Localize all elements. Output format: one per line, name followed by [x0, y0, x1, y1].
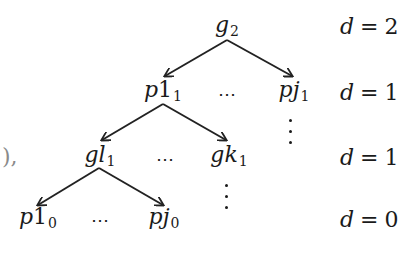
node-subscript: 0 [48, 215, 57, 231]
depth-label-2: d=1 [340, 145, 399, 170]
node-p1_0: p10 [19, 206, 57, 230]
depth-label-0: d=2 [340, 14, 399, 39]
node-index: 1 [158, 77, 172, 102]
depth-equals: = [360, 80, 378, 105]
node-base: pj [279, 77, 300, 102]
depth-var: d [340, 207, 354, 232]
node-subscript: 1 [300, 88, 309, 104]
vertical-ellipsis [224, 184, 228, 217]
node-base: pj [149, 204, 170, 229]
node-index: 1 [33, 204, 47, 229]
left-fragment-paren-comma: ), [2, 144, 18, 169]
depth-value: 1 [385, 80, 399, 105]
depth-value: 0 [385, 207, 399, 232]
vertical-ellipsis [288, 119, 292, 152]
node-subscript: 1 [173, 88, 182, 104]
depth-value: 1 [385, 145, 399, 170]
horizontal-ellipsis: ⋯ [156, 148, 176, 169]
depth-label-3: d=0 [340, 207, 399, 232]
depth-value: 2 [385, 14, 399, 39]
node-p1_1: p11 [144, 79, 182, 103]
node-base: g [215, 12, 229, 37]
horizontal-ellipsis: ⋯ [91, 209, 111, 230]
arrow-edge-g2-to-p1_1 [165, 40, 227, 76]
arrow-edge-gl_1-to-p1_0 [38, 168, 99, 205]
arrow-edge-g2-to-pj_1 [227, 40, 292, 76]
horizontal-ellipsis: ⋯ [218, 83, 238, 104]
node-g2: g2 [215, 14, 239, 38]
node-base: gk [210, 142, 237, 167]
node-gl_1: gl1 [84, 144, 115, 168]
node-subscript: 0 [170, 215, 179, 231]
arrow-edge-p1_1-to-gk_1 [163, 104, 226, 140]
node-subscript: 1 [107, 153, 116, 169]
depth-label-1: d=1 [340, 80, 399, 105]
depth-var: d [340, 80, 354, 105]
node-pj_1: pj1 [279, 79, 310, 103]
arrow-edge-p1_1-to-gl_1 [102, 104, 163, 140]
node-base: p [19, 204, 33, 229]
depth-equals: = [360, 207, 378, 232]
node-pj_0: pj0 [149, 206, 180, 230]
depth-equals: = [360, 14, 378, 39]
depth-var: d [340, 14, 354, 39]
arrow-edge-gl_1-to-pj_0 [99, 168, 163, 205]
node-base: p [144, 77, 158, 102]
node-subscript: 2 [230, 23, 239, 39]
node-subscript: 1 [239, 153, 248, 169]
node-gk_1: gk1 [210, 144, 247, 168]
node-base: gl [84, 142, 105, 167]
depth-var: d [340, 145, 354, 170]
tree-diagram: ), g2p11pj1gl1gk1p10pj0 ⋯⋯⋯ d=2d=1d=1d=0 [0, 0, 410, 256]
depth-equals: = [360, 145, 378, 170]
